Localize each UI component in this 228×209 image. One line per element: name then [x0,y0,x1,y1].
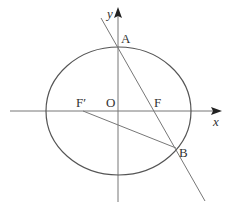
point-label-F: F [154,95,161,110]
y-axis-label: y [105,6,113,21]
x-axis-label: x [212,114,219,129]
point-label-F-prime: F′ [76,95,86,110]
x-axis [10,107,222,115]
ellipse-diagram: y x A O F′ F B [0,0,228,209]
point-label-B: B [179,145,188,160]
line-AB [101,18,205,201]
segment-F-prime-B [83,111,176,148]
point-label-A: A [121,31,131,46]
origin-label: O [106,95,115,110]
